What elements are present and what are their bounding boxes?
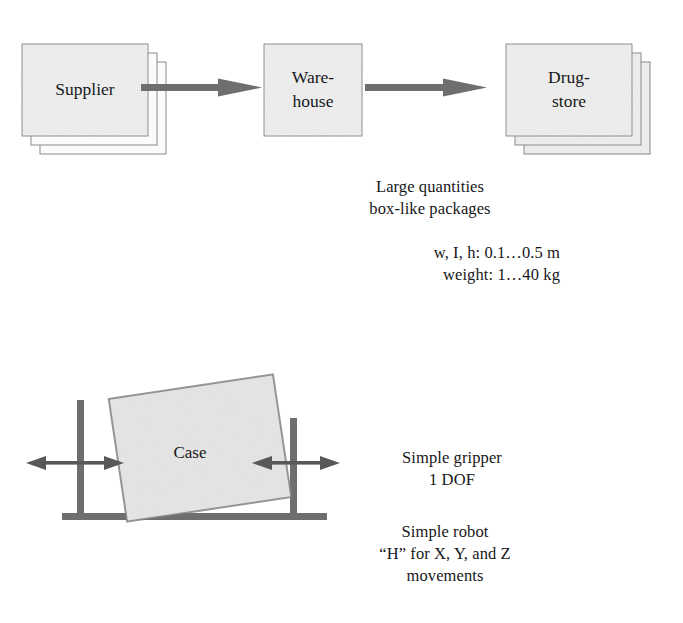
drugstore-label-line-2: store bbox=[552, 91, 586, 111]
case-label: Case bbox=[173, 443, 206, 462]
caption-large-quantities: Large quantities box-like packages bbox=[300, 176, 560, 220]
flow-node-supplier: Supplier bbox=[22, 44, 166, 154]
drugstore-box bbox=[506, 44, 632, 136]
flow-node-drugstore: Drug- store bbox=[506, 44, 650, 154]
supplier-label: Supplier bbox=[55, 79, 114, 99]
gripper-post-left bbox=[77, 400, 84, 516]
caption-simple-robot: Simple robot “H” for X, Y, and Z movemen… bbox=[320, 521, 570, 587]
flow-node-warehouse: Ware- house bbox=[264, 44, 362, 136]
gripper-post-right bbox=[290, 418, 297, 516]
caption-simple-gripper: Simple gripper 1 DOF bbox=[337, 447, 567, 491]
robot-base-bar bbox=[62, 513, 327, 520]
drugstore-label-line-1: Drug- bbox=[548, 67, 590, 87]
caption-package-dimensions: w, I, h: 0.1…0.5 m weight: 1…40 kg bbox=[300, 242, 560, 286]
diagram-canvas: Supplier Ware- house Drug- store bbox=[0, 0, 683, 623]
warehouse-box bbox=[264, 44, 362, 136]
arrow-warehouse-to-drugstore bbox=[365, 79, 487, 97]
warehouse-label-line-2: house bbox=[293, 91, 334, 111]
warehouse-label-line-1: Ware- bbox=[292, 67, 334, 87]
gripper-arrow-left bbox=[26, 456, 124, 470]
